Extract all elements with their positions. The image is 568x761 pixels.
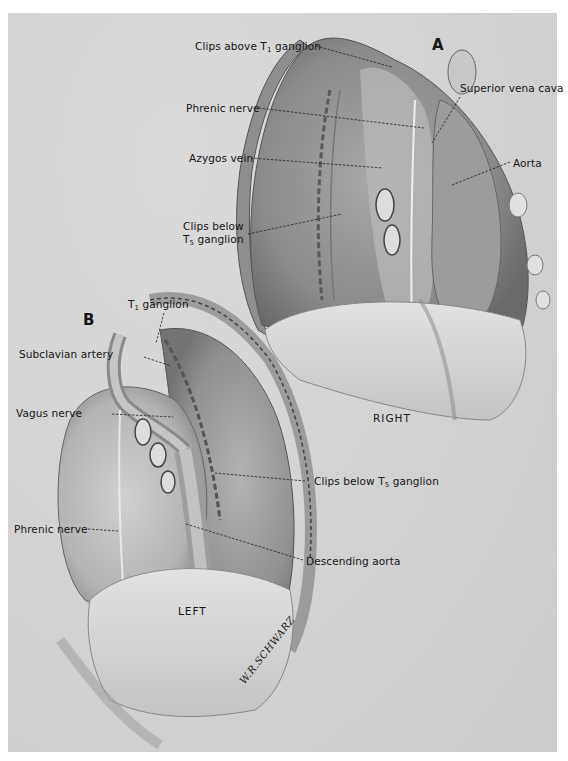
label-aorta: Aorta bbox=[513, 157, 542, 169]
label-phrenic-nerve-b: Phrenic nerve bbox=[14, 523, 88, 535]
label-clips-above-t1-ganglion: Clips above T1 ganglion bbox=[195, 40, 321, 56]
panel-a-letter: A bbox=[432, 36, 444, 54]
label-vagus-nerve: Vagus nerve bbox=[16, 407, 82, 419]
side-label-left: LEFT bbox=[178, 605, 207, 617]
label-text: Clips below T bbox=[314, 475, 385, 487]
label-clips-below-t5-ganglion-b: Clips below T5 ganglion bbox=[314, 475, 439, 491]
label-clips-below-t5-line2: T5 ganglion bbox=[183, 233, 244, 249]
label-clips-below-t5-line1: Clips below bbox=[183, 220, 244, 232]
label-phrenic-nerve-a: Phrenic nerve bbox=[186, 102, 260, 114]
panel-a-drawing bbox=[237, 38, 550, 420]
label-text: ganglion bbox=[271, 40, 321, 52]
side-label-right: RIGHT bbox=[373, 412, 411, 424]
label-text: Clips above T bbox=[195, 40, 267, 52]
label-text: ganglion bbox=[194, 233, 244, 245]
label-t1-ganglion: T1 ganglion bbox=[128, 298, 189, 314]
label-superior-vena-cava: Superior vena cava bbox=[460, 82, 564, 94]
anatomical-illustration bbox=[0, 0, 568, 761]
label-text: ganglion bbox=[139, 298, 189, 310]
panel-b-letter: B bbox=[83, 311, 94, 329]
label-descending-aorta: Descending aorta bbox=[306, 555, 400, 567]
label-azygos-vein: Azygos vein bbox=[189, 152, 253, 164]
label-text: ganglion bbox=[389, 475, 439, 487]
panel-b-drawing bbox=[58, 298, 311, 745]
label-subclavian-artery: Subclavian artery bbox=[19, 348, 113, 360]
